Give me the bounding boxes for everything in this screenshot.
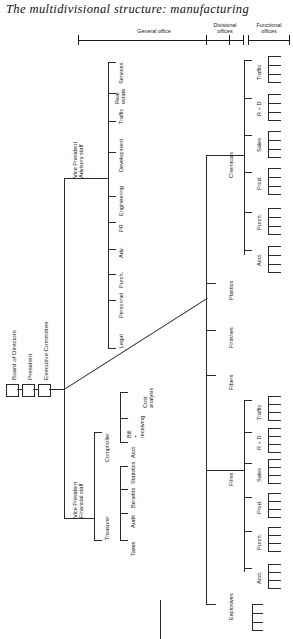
advisory-feed [78, 178, 108, 179]
advisory-item-adv: Adv. [118, 247, 124, 258]
advisory-item-pr: PR [118, 224, 124, 232]
advisory-item-engineering: Engineering [118, 186, 124, 216]
trunk-upper [64, 178, 65, 389]
page-title: The multidivisional structure: manufactu… [6, 2, 249, 17]
films-func-purch: Purch. [256, 534, 262, 550]
films-func-traffic: Traffic [256, 405, 262, 420]
bottom-continuation-rule [160, 600, 161, 639]
label-vp-financial-staff: Vice President Financial staff [72, 482, 85, 518]
advisory-item-personnel: Personnel [118, 293, 124, 318]
label-board-of-directors: Board of Directors [10, 330, 17, 380]
advisory-item-development: Development [118, 139, 124, 172]
advisory-item-traffic: Traffic [118, 109, 124, 124]
label-executive-committee: Executive Committee [42, 322, 49, 380]
division-label-plastics: Plastics [228, 281, 234, 300]
advisory-item-real-estate: Real estate [114, 89, 127, 104]
label-comptroller: Comptroller [104, 433, 110, 462]
films-func-acct: Acct. [256, 572, 262, 584]
films-func-sales: Sales [256, 468, 262, 482]
financial-feed [78, 518, 94, 519]
box-board-of-directors[interactable] [6, 384, 19, 397]
trunk-lower [64, 389, 65, 518]
chem-func-rd: R + D [256, 102, 262, 116]
org-chart-canvas: The multidivisional structure: manufactu… [0, 0, 293, 639]
chem-func-acct: Acct. [256, 254, 262, 266]
chemicals-functional-spine [244, 60, 245, 255]
stub-vp-advisory [64, 178, 78, 179]
box-executive-committee[interactable] [38, 384, 51, 397]
diagonal-connector [64, 298, 208, 390]
films-func-prod: Prod. [256, 501, 262, 514]
treasurer-spine [120, 466, 121, 540]
comptroller-spine [120, 392, 121, 442]
label-president: President [26, 354, 33, 380]
divisional-spine [206, 155, 207, 605]
advisory-item-legal: Legal [118, 334, 124, 348]
division-label-explosives: Explosives [228, 593, 234, 620]
box-president[interactable] [22, 384, 35, 397]
chem-func-prod: Prod. [256, 177, 262, 190]
treasurer-item-benefits: Benefits [130, 488, 136, 508]
division-label-fibers: Fibers [228, 374, 234, 390]
chem-func-sales: Sales [256, 138, 262, 152]
advisory-spine [108, 62, 109, 348]
chemicals-feed [216, 155, 244, 156]
treasurer-item-audit: Audit [130, 515, 136, 528]
advisory-item-services: Services [118, 63, 124, 84]
comptroller-item-cost-analysis: Cost analysis [142, 388, 155, 408]
label-vp-advisory-staff: Vice President Advisory staff [72, 142, 85, 178]
stub-vp-financial [64, 518, 78, 519]
header-label-divisional-offices: Divisional offices [204, 22, 246, 35]
division-label-finishes: Finishes [228, 327, 234, 348]
treasurer-item-statistics: Statistics [130, 462, 136, 484]
label-treasurer: Treasurer [104, 516, 110, 540]
comptroller-item-bill-receiving: Bill + receiving [126, 416, 145, 438]
chem-func-traffic: Traffic [256, 65, 262, 80]
financial-spine [94, 432, 95, 540]
header-label-functional-offices: Functional offices [246, 22, 292, 35]
division-label-films: Films [228, 473, 234, 486]
films-feed [216, 470, 244, 471]
films-func-rd: R + D [256, 436, 262, 450]
treasurer-item-taxes: Taxes [130, 541, 136, 556]
comptroller-item-acct: Acct. [130, 446, 136, 458]
films-functional-spine [244, 400, 245, 572]
advisory-item-purch: Purch. [118, 272, 124, 288]
chem-func-purch: Purch. [256, 214, 262, 230]
